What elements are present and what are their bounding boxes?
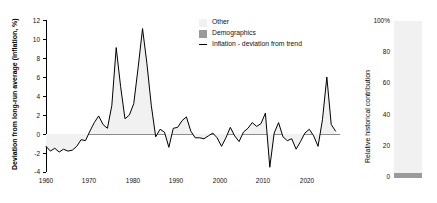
- y-tick-label: 80: [366, 49, 390, 56]
- x-tick-label: 1960: [33, 178, 59, 185]
- x-tick-label: 1990: [163, 178, 189, 185]
- relative-contribution-chart: Relative historical contribution 100% 80…: [350, 0, 437, 203]
- legend-line-icon: [199, 44, 207, 45]
- y-tick-label: -2: [24, 151, 40, 158]
- y-tick-label: 100%: [366, 18, 390, 25]
- legend-item-other: Other: [199, 17, 349, 28]
- x-tick-label: 2020: [294, 178, 320, 185]
- y-tick-label: 20: [366, 143, 390, 150]
- y-tick-label: 12: [24, 18, 40, 25]
- inflation-deviation-chart: Deviation from long-run average (inflati…: [0, 0, 350, 203]
- bar-segment-demographics: [394, 173, 422, 179]
- x-tick-label: 2000: [207, 178, 233, 185]
- legend-label: Inflation - deviation from trend: [212, 41, 302, 48]
- legend-swatch-icon: [199, 30, 207, 38]
- legend-swatch-icon: [199, 19, 207, 27]
- y-tick-label: 0: [366, 174, 390, 181]
- y-tick-label: 4: [24, 94, 40, 101]
- left-y-axis-title: Deviation from long-run average (inflati…: [11, 18, 18, 170]
- y-tick-label: 40: [366, 112, 390, 119]
- legend-label: Other: [212, 19, 229, 26]
- y-tick-label: 10: [24, 37, 40, 44]
- legend-item-demographics: Demographics: [199, 28, 349, 39]
- figure-root: Deviation from long-run average (inflati…: [0, 0, 437, 203]
- y-tick-label: -4: [24, 169, 40, 176]
- y-tick-label: 60: [366, 80, 390, 87]
- stacked-bar: [394, 21, 422, 178]
- y-tick-label: 8: [24, 56, 40, 63]
- y-tick-label: 6: [24, 75, 40, 82]
- legend-item-inflation: Inflation - deviation from trend: [199, 39, 349, 50]
- y-tick-label: 0: [24, 132, 40, 139]
- legend-label: Demographics: [212, 30, 256, 37]
- bar-segment-other: [394, 21, 422, 173]
- x-tick-label: 1970: [76, 178, 102, 185]
- x-tick-label: 2010: [250, 178, 276, 185]
- y-tick-label: 2: [24, 113, 40, 120]
- x-tick-label: 1980: [120, 178, 146, 185]
- y-tick-mark: [43, 172, 46, 173]
- legend: Other Demographics Inflation - deviation…: [199, 17, 349, 50]
